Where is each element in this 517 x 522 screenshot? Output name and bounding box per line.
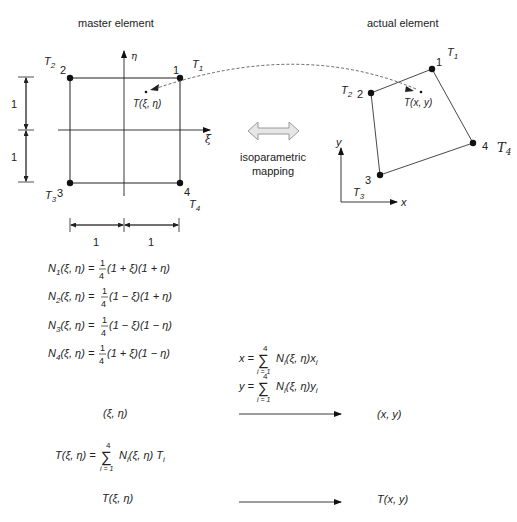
- y-mapping-equation: y = 4 ∑ i = 1 Ni(ξ, η)yi: [238, 372, 318, 403]
- master-element: η ξ 1 2 3 4 T1 T2 T3 T4 T(ξ, η) 1 1: [11, 50, 212, 248]
- shape-function-2: N2(ξ, η) = 1 4 (1 − ξ)(1 + η): [48, 286, 172, 309]
- master-T2-label: T2: [44, 55, 56, 70]
- isoparametric-mapping-arrow: [248, 122, 299, 140]
- master-T1-label: T1: [192, 58, 203, 73]
- master-T4-label: T4: [189, 198, 201, 213]
- master-node-4: [177, 180, 183, 186]
- vertical-dimension: 1 1: [11, 77, 34, 182]
- svg-text:Ni(ξ, η) Ti: Ni(ξ, η) Ti: [119, 449, 165, 464]
- actual-T1-label: T1: [447, 46, 458, 61]
- actual-node-4: [470, 140, 476, 146]
- svg-text:1: 1: [102, 286, 107, 296]
- actual-quad: [371, 69, 473, 175]
- svg-text:i = 1: i = 1: [257, 396, 271, 403]
- shape-functions: N1(ξ, η) = 1 4 (1 + ξ)(1 + η) N2(ξ, η) =…: [48, 258, 172, 366]
- svg-text:∑: ∑: [101, 448, 112, 466]
- svg-text:4: 4: [99, 271, 104, 281]
- svg-text:4: 4: [99, 356, 104, 366]
- actual-node-4-label: 4: [482, 140, 488, 152]
- actual-point: [420, 91, 423, 94]
- coord-from-label: (ξ, η): [103, 407, 128, 420]
- actual-node-1: [429, 66, 435, 72]
- svg-text:N2(ξ, η) =: N2(ξ, η) =: [48, 290, 95, 305]
- dashed-curve-arrowhead-left: [150, 84, 159, 91]
- svg-text:Ni(ξ, η)xi: Ni(ξ, η)xi: [276, 352, 318, 367]
- actual-T2-label: T2: [341, 84, 353, 99]
- actual-node-1-label: 1: [436, 56, 442, 68]
- master-node-3-label: 3: [57, 187, 63, 199]
- svg-text:(1 − ξ)(1 − η): (1 − ξ)(1 − η): [109, 319, 172, 332]
- mapping-label-line2: mapping: [252, 165, 294, 177]
- svg-text:∑: ∑: [258, 351, 269, 369]
- dim-v-lower-label: 1: [11, 151, 17, 163]
- temperature-mapping: T(ξ, η) = 4 ∑ i = 1 Ni(ξ, η) Ti T(ξ, η) …: [55, 441, 408, 505]
- temp-from-label: T(ξ, η): [102, 492, 134, 505]
- master-node-4-label: 4: [184, 186, 190, 198]
- isoparametric-diagram: master element actual element η ξ 1 2 3 …: [0, 0, 517, 522]
- master-node-2: [67, 75, 73, 81]
- svg-text:i = 1: i = 1: [100, 465, 114, 472]
- actual-node-2: [368, 90, 374, 96]
- svg-text:4: 4: [101, 299, 106, 309]
- master-point-label: T(ξ, η): [133, 98, 161, 110]
- shape-function-4: N4(ξ, η) = 1 4 (1 + ξ)(1 − η): [48, 343, 170, 366]
- shape-function-1: N1(ξ, η) = 1 4 (1 + ξ)(1 + η): [48, 258, 170, 281]
- actual-element-title: actual element: [367, 17, 439, 29]
- actual-node-2-label: 2: [357, 88, 363, 100]
- svg-text:Ni(ξ, η)yi: Ni(ξ, η)yi: [276, 380, 318, 395]
- dim-h-left-label: 1: [93, 236, 99, 248]
- temperature-interpolation-equation: T(ξ, η) = 4 ∑ i = 1 Ni(ξ, η) Ti: [55, 441, 165, 472]
- svg-text:T(ξ, η) =: T(ξ, η) =: [55, 449, 96, 462]
- mapping-label-line1: isoparametric: [240, 151, 307, 163]
- actual-element: 1 2 3 4 T1 T2 T3 T4 T(x, y) y x: [335, 46, 512, 208]
- actual-node-3: [377, 172, 383, 178]
- coord-to-label: (x, y): [377, 408, 402, 420]
- master-node-1-label: 1: [173, 64, 179, 76]
- dashed-curve-arrowhead-right: [405, 86, 414, 92]
- actual-point-label: T(x, y): [404, 97, 432, 108]
- master-square: [70, 78, 180, 183]
- svg-text:(1 + ξ)(1 − η): (1 + ξ)(1 − η): [107, 347, 170, 360]
- actual-T4-label: T4: [497, 140, 512, 157]
- svg-text:y =: y =: [238, 380, 255, 392]
- svg-text:(1 − ξ)(1 + η): (1 − ξ)(1 + η): [109, 290, 172, 303]
- master-node-3: [67, 180, 73, 186]
- eta-axis-label: η: [131, 50, 137, 61]
- master-T3-label: T3: [45, 189, 57, 204]
- dim-h-right-label: 1: [148, 236, 154, 248]
- svg-text:1: 1: [100, 343, 105, 353]
- horizontal-dimension: 1 1: [70, 218, 179, 248]
- actual-node-3-label: 3: [365, 174, 371, 186]
- svg-text:N1(ξ, η) =: N1(ξ, η) =: [48, 262, 95, 277]
- svg-text:1: 1: [102, 315, 107, 325]
- master-element-title: master element: [78, 17, 154, 29]
- temp-to-label: T(x, y): [377, 493, 408, 505]
- svg-text:∑: ∑: [258, 379, 269, 397]
- svg-text:N3(ξ, η) =: N3(ξ, η) =: [48, 319, 95, 334]
- master-node-2-label: 2: [60, 64, 66, 76]
- master-point: [145, 91, 148, 94]
- dim-v-upper-label: 1: [11, 98, 17, 110]
- xi-axis-label: ξ: [205, 133, 212, 146]
- svg-text:x =: x =: [238, 352, 255, 364]
- y-axis-label: y: [335, 136, 343, 148]
- svg-text:4: 4: [101, 328, 106, 338]
- shape-function-3: N3(ξ, η) = 1 4 (1 − ξ)(1 − η): [48, 315, 172, 338]
- svg-text:N4(ξ, η) =: N4(ξ, η) =: [48, 347, 95, 362]
- actual-T3-label: T3: [353, 186, 365, 201]
- svg-text:1: 1: [100, 258, 105, 268]
- x-axis-label: x: [400, 196, 407, 208]
- svg-text:(1 + ξ)(1 + η): (1 + ξ)(1 + η): [107, 262, 170, 275]
- x-mapping-equation: x = 4 ∑ i = 1 Ni(ξ, η)xi: [238, 344, 318, 375]
